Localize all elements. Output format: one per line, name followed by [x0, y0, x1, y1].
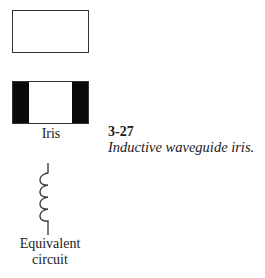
equivalent-label-line1: Equivalent: [0, 236, 100, 252]
iris-label: Iris: [12, 126, 90, 142]
inductor-icon: [36, 163, 60, 239]
figure-number: 3-27: [108, 124, 134, 140]
iris-cross-section: [12, 81, 89, 124]
iris-right-plate: [72, 82, 88, 123]
equivalent-label-line2: circuit: [0, 252, 100, 268]
iris-left-plate: [13, 82, 29, 123]
figure-caption: Inductive waveguide iris.: [108, 139, 254, 156]
equivalent-circuit-label: Equivalent circuit: [0, 236, 100, 268]
waveguide-cross-section: [12, 10, 89, 53]
